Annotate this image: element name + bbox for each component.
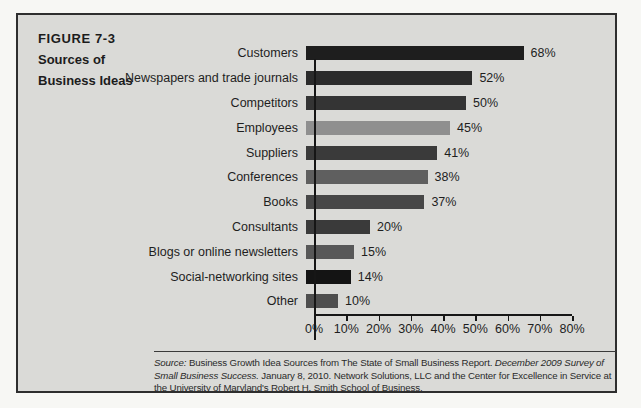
category-label: Employees xyxy=(18,121,306,135)
bar-value-label: 50% xyxy=(473,96,498,110)
bar-value-label: 20% xyxy=(377,220,402,234)
bar xyxy=(306,146,437,160)
x-axis-tick-label: 70% xyxy=(527,322,552,336)
x-axis-tick xyxy=(411,316,413,321)
chart-row: Consultants20% xyxy=(18,215,615,240)
category-label: Consultants xyxy=(18,220,306,234)
plot-cell: 15% xyxy=(306,239,615,264)
category-label: Suppliers xyxy=(18,146,306,160)
bar xyxy=(306,195,424,209)
chart-row: Competitors50% xyxy=(18,91,615,116)
y-axis-line xyxy=(314,59,316,340)
bar-value-label: 52% xyxy=(479,71,504,85)
chart-row: Books37% xyxy=(18,190,615,215)
chart-row: Social-networking sites14% xyxy=(18,264,615,289)
bar-value-label: 14% xyxy=(358,270,383,284)
bar xyxy=(306,46,524,60)
plot-cell: 68% xyxy=(306,41,615,66)
bar xyxy=(306,170,428,184)
x-axis-tick xyxy=(540,316,542,321)
plot-cell: 10% xyxy=(306,289,615,314)
category-label: Blogs or online newsletters xyxy=(18,245,306,259)
x-axis: 0%10%20%30%40%50%60%70%80% xyxy=(314,314,572,338)
plot-cell: 41% xyxy=(306,140,615,165)
plot-cell: 50% xyxy=(306,91,615,116)
bar xyxy=(306,121,450,135)
bar-value-label: 68% xyxy=(531,46,556,60)
plot-cell: 45% xyxy=(306,115,615,140)
x-axis-tick xyxy=(508,316,510,321)
bar-value-label: 41% xyxy=(444,146,469,160)
x-axis-tick xyxy=(475,316,477,321)
plot-cell: 20% xyxy=(306,215,615,240)
source-note-segment: Source: xyxy=(154,357,186,368)
bar-value-label: 15% xyxy=(361,245,386,259)
source-note: Source: Business Growth Idea Sources fro… xyxy=(154,351,616,395)
category-label: Social-networking sites xyxy=(18,270,306,284)
x-axis-tick xyxy=(346,316,348,321)
bar xyxy=(306,96,466,110)
bar xyxy=(306,270,351,284)
plot-cell: 38% xyxy=(306,165,615,190)
bar-value-label: 38% xyxy=(435,170,460,184)
x-axis-tick-label: 0% xyxy=(305,322,323,336)
chart-row: Suppliers41% xyxy=(18,140,615,165)
category-label: Newspapers and trade journals xyxy=(18,71,306,85)
plot-cell: 52% xyxy=(306,66,615,91)
page: FIGURE 7-3 Sources of Business Ideas Cus… xyxy=(0,0,641,408)
x-axis-tick-label: 10% xyxy=(334,322,359,336)
bar-value-label: 37% xyxy=(431,195,456,209)
plot-cell: 37% xyxy=(306,190,615,215)
bar xyxy=(306,294,338,308)
category-label: Other xyxy=(18,294,306,308)
chart-row: Other10% xyxy=(18,289,615,314)
bar-chart: Customers68%Newspapers and trade journal… xyxy=(18,41,615,338)
chart-row: Conferences38% xyxy=(18,165,615,190)
x-axis-tick xyxy=(572,316,574,321)
x-axis-tick xyxy=(379,316,381,321)
category-label: Books xyxy=(18,195,306,209)
category-label: Conferences xyxy=(18,170,306,184)
x-axis-tick-label: 80% xyxy=(559,322,584,336)
bar-value-label: 10% xyxy=(345,294,370,308)
chart-row: Newspapers and trade journals52% xyxy=(18,66,615,91)
x-axis-tick xyxy=(314,316,316,321)
bar-value-label: 45% xyxy=(457,121,482,135)
x-axis-tick-label: 40% xyxy=(430,322,455,336)
chart-row: Employees45% xyxy=(18,115,615,140)
chart-row: Customers68% xyxy=(18,41,615,66)
x-axis-tick xyxy=(443,316,445,321)
x-axis-tick-label: 30% xyxy=(398,322,423,336)
bar xyxy=(306,71,472,85)
source-note-segment: Business Growth Idea Sources from The St… xyxy=(186,357,494,368)
category-label: Competitors xyxy=(18,96,306,110)
bar-chart-rows: Customers68%Newspapers and trade journal… xyxy=(18,41,615,314)
x-axis-tick-label: 50% xyxy=(463,322,488,336)
category-label: Customers xyxy=(18,46,306,60)
x-axis-tick-label: 20% xyxy=(366,322,391,336)
x-axis-tick-label: 60% xyxy=(495,322,520,336)
plot-cell: 14% xyxy=(306,264,615,289)
chart-row: Blogs or online newsletters15% xyxy=(18,239,615,264)
figure-panel: FIGURE 7-3 Sources of Business Ideas Cus… xyxy=(16,13,617,393)
